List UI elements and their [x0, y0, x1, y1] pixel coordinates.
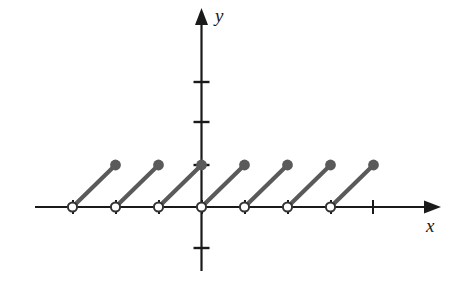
- y-axis-label: y: [213, 5, 224, 26]
- function-segment-1: [116, 165, 159, 207]
- open-endpoint-4: [240, 202, 249, 211]
- function-segment-4: [245, 165, 288, 207]
- y-axis-arrowhead: [195, 8, 208, 25]
- closed-endpoint-3: [239, 160, 250, 171]
- closed-endpoint-6: [368, 160, 379, 171]
- axes-group: [35, 8, 441, 271]
- function-segment-2: [159, 165, 202, 207]
- open-endpoint-0: [68, 202, 77, 211]
- closed-endpoint-2: [196, 160, 207, 171]
- open-endpoint-1: [111, 202, 120, 211]
- open-endpoint-5: [283, 202, 292, 211]
- function-segment-3: [202, 165, 245, 207]
- graph-figure: x y: [0, 0, 459, 287]
- closed-endpoint-4: [282, 160, 293, 171]
- x-axis-label: x: [425, 215, 435, 236]
- open-endpoint-6: [326, 202, 335, 211]
- x-axis-arrowhead: [424, 201, 441, 214]
- function-segments-group: [73, 165, 374, 207]
- open-endpoint-2: [154, 202, 163, 211]
- function-segment-5: [288, 165, 331, 207]
- sawtooth-graph-canvas: x y: [0, 0, 459, 287]
- closed-endpoint-5: [325, 160, 336, 171]
- closed-endpoints-group: [110, 160, 379, 171]
- function-segment-6: [331, 165, 374, 207]
- closed-endpoint-1: [153, 160, 164, 171]
- open-endpoint-3: [197, 202, 206, 211]
- function-segment-0: [73, 165, 116, 207]
- closed-endpoint-0: [110, 160, 121, 171]
